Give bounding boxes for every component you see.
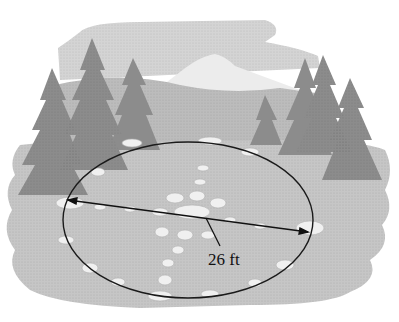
forest-clearing-illustration: 26 ft	[0, 0, 399, 322]
diameter-label: 26 ft	[208, 250, 240, 270]
scene-artwork	[0, 0, 399, 322]
